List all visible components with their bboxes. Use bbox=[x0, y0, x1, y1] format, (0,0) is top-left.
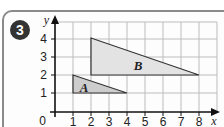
y-tick-3: 3 bbox=[40, 50, 47, 64]
x-tick-2: 2 bbox=[88, 115, 95, 127]
origin-label: 0 bbox=[39, 114, 46, 127]
y-axis-label: y bbox=[43, 13, 50, 27]
y-tick-4: 4 bbox=[40, 32, 47, 46]
triangle-b-label: B bbox=[133, 58, 143, 73]
x-tick-8: 8 bbox=[196, 115, 203, 127]
y-axis-arrow-icon bbox=[51, 15, 59, 24]
y-tick-1: 1 bbox=[40, 86, 47, 100]
x-tick-1: 1 bbox=[70, 115, 77, 127]
x-axis-label: x bbox=[210, 114, 217, 127]
y-tick-2: 2 bbox=[40, 68, 47, 82]
x-tick-4: 4 bbox=[124, 115, 131, 127]
x-tick-6: 6 bbox=[160, 115, 167, 127]
coordinate-grid: 1 2 3 4 5 6 7 8 1 2 3 4 0 y x B A bbox=[0, 0, 224, 127]
x-tick-3: 3 bbox=[106, 115, 113, 127]
x-tick-5: 5 bbox=[142, 115, 149, 127]
triangle-a-label: A bbox=[79, 80, 89, 95]
x-tick-7: 7 bbox=[178, 115, 185, 127]
